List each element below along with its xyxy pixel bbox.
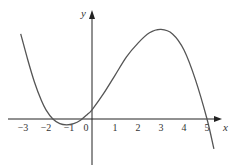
axes: x y (8, 7, 228, 165)
x-tick-label: −2 (41, 122, 52, 133)
x-axis-label: x (222, 121, 228, 133)
y-axis-arrow (89, 10, 95, 19)
y-axis-label: y (80, 7, 86, 19)
chart: x y −3−2−1012345 (0, 0, 234, 167)
x-axis-arrow (214, 116, 222, 122)
x-tick-label: 4 (182, 122, 187, 133)
x-tick-label: 2 (136, 122, 141, 133)
x-tick-label: 0 (84, 122, 89, 133)
x-tick-label: 3 (159, 122, 164, 133)
x-tick-label: 1 (113, 122, 118, 133)
x-tick-label: −3 (18, 122, 29, 133)
